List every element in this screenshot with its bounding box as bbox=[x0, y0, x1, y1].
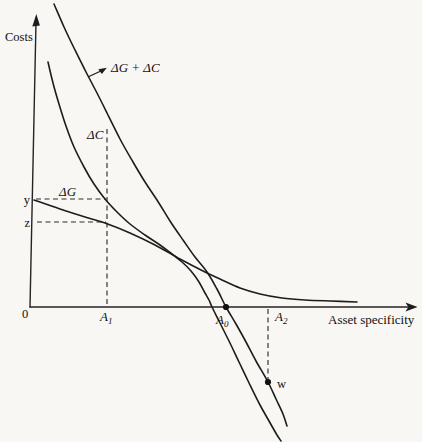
a1-base: A bbox=[99, 309, 108, 324]
figure-background bbox=[0, 0, 422, 442]
delta-c-curve-label: ΔC bbox=[86, 127, 104, 142]
a0-point-marker bbox=[223, 304, 229, 310]
delta-g-curve-label: ΔG bbox=[58, 184, 77, 199]
figure-canvas: Costs Asset specificity ΔG + ΔC ΔC ΔG y … bbox=[0, 0, 422, 442]
y-level-label: y bbox=[24, 193, 31, 207]
x-axis-title: Asset specificity bbox=[328, 312, 415, 327]
a2-base: A bbox=[274, 309, 283, 324]
z-level-label: z bbox=[24, 216, 30, 230]
w-point-label: w bbox=[277, 377, 286, 391]
origin-label: 0 bbox=[22, 307, 28, 321]
a2-subscript: 2 bbox=[283, 316, 288, 326]
a1-subscript: 1 bbox=[108, 316, 113, 326]
y-axis-title: Costs bbox=[5, 30, 33, 44]
w-point-marker bbox=[265, 379, 271, 385]
sum-curve-label: ΔG + ΔC bbox=[110, 60, 160, 75]
a0-base: A bbox=[215, 312, 224, 327]
a0-subscript: 0 bbox=[224, 319, 229, 329]
